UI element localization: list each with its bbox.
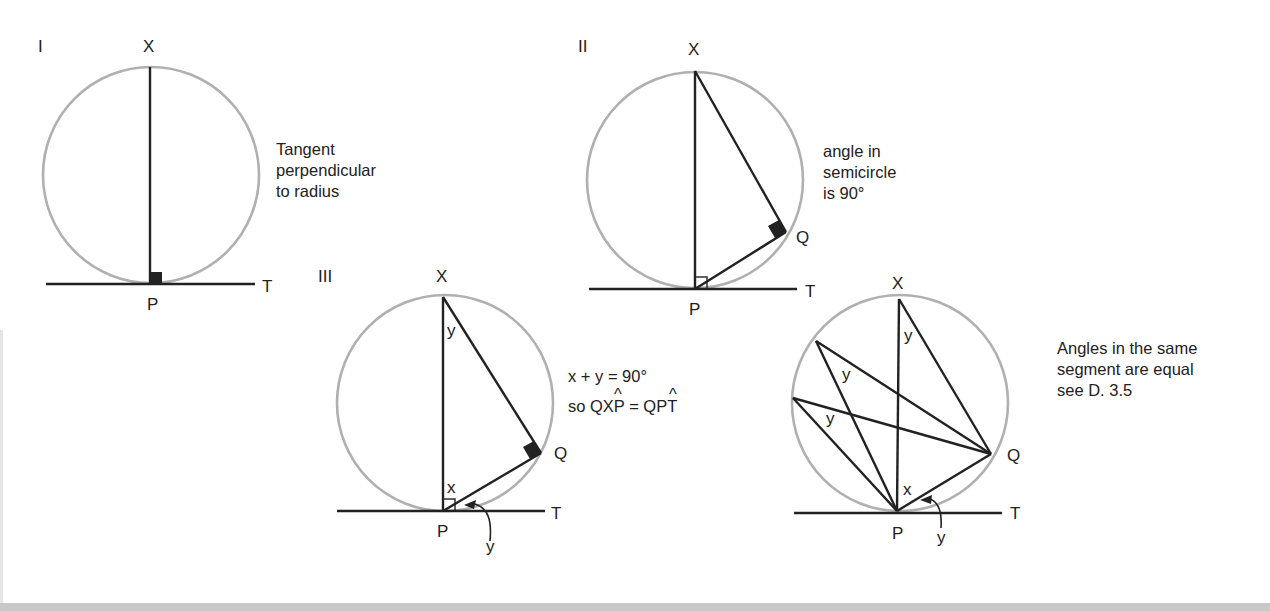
hat-over-x: ^	[614, 385, 622, 403]
panel-numeral-ii: II	[578, 37, 587, 56]
caption-line-1: x + y = 90°	[568, 367, 647, 385]
caption-line-3: see D. 3.5	[1057, 381, 1132, 399]
circle	[337, 295, 553, 511]
tangent-angle-label-y: y	[486, 537, 495, 556]
tangent-angle-arrow	[475, 504, 490, 541]
right-angle-marker-q	[768, 220, 786, 238]
panel-iii: III X y x y P Q T x + y = 90° so QXP = Q…	[318, 267, 677, 556]
label-q: Q	[554, 444, 567, 463]
chord-xq	[695, 71, 786, 232]
angle-label-x-at-p: x	[447, 478, 456, 497]
circle-theorem-figure: I X P T Tangent perpendicular to radius …	[0, 0, 1270, 611]
chord-xq	[443, 297, 541, 453]
caption-line-2: so QXP = QPT	[568, 397, 677, 415]
right-angle-marker	[150, 272, 162, 284]
caption-line-1: Angles in the same	[1057, 339, 1197, 357]
caption-line-1: angle in	[823, 142, 881, 160]
page-edge-shadow	[0, 330, 3, 603]
label-x: X	[436, 267, 447, 286]
label-p: P	[147, 295, 158, 314]
angle-label-y-at-x: y	[904, 326, 913, 345]
label-x: X	[892, 274, 903, 293]
label-q: Q	[796, 228, 809, 247]
chord-pq	[443, 453, 541, 511]
label-p: P	[689, 300, 700, 319]
angle-label-y-at-a: y	[842, 365, 851, 384]
chord-bp	[793, 398, 897, 511]
panel-numeral-i: I	[38, 37, 43, 56]
chord-bq	[793, 398, 991, 454]
panel-iv: X y y y x y P Q T Angles in the same seg…	[792, 274, 1197, 547]
label-t: T	[805, 282, 815, 301]
label-p: P	[892, 524, 903, 543]
caption-line-1: Tangent	[276, 140, 335, 158]
label-x: X	[688, 40, 699, 59]
angle-label-x-at-p: x	[903, 480, 912, 499]
panel-numeral-iii: III	[318, 267, 332, 286]
caption-line-2: perpendicular	[276, 161, 376, 179]
label-x: X	[143, 37, 154, 56]
label-q: Q	[1007, 446, 1020, 465]
label-t: T	[1010, 504, 1020, 523]
hat-over-p: ^	[669, 385, 677, 403]
angle-label-y-at-x: y	[447, 321, 456, 340]
caption-line-3: is 90°	[823, 184, 864, 202]
label-t: T	[551, 504, 561, 523]
label-p: P	[437, 522, 448, 541]
label-t: T	[262, 277, 272, 296]
diameter-xp	[897, 299, 899, 511]
caption-line-2: semicircle	[823, 163, 896, 181]
tangent-angle-label-y: y	[937, 528, 946, 547]
caption-line-2: segment are equal	[1057, 360, 1194, 378]
chord-pq	[695, 232, 786, 289]
caption-line-3: to radius	[276, 182, 339, 200]
circle	[792, 295, 1008, 511]
panel-ii: II X P Q T angle in semicircle is 90°	[578, 37, 896, 319]
angle-label-y-at-b: y	[826, 409, 835, 428]
page-bottom-border	[0, 603, 1270, 611]
